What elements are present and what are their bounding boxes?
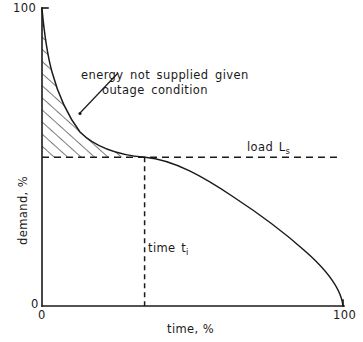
load-duration-curve-figure: 100 0 0 100 demand, % time, % energy not… — [0, 0, 363, 342]
x-tick-label-max: 100 — [333, 308, 356, 322]
load-Ls-label-text: load L — [247, 140, 286, 154]
y-tick-label-max: 100 — [13, 1, 36, 15]
plot-area — [0, 0, 363, 342]
load-Ls-label: load Ls — [247, 140, 290, 156]
annotation-line-1: energy not supplied given — [81, 68, 249, 82]
load-Ls-label-subscript: s — [286, 146, 290, 156]
annotation-line-2: outage condition — [81, 83, 249, 98]
x-tick-label-min: 0 — [38, 308, 46, 322]
time-ti-label-text: time t — [148, 241, 186, 255]
time-ti-label: time ti — [148, 241, 188, 257]
time-ti-label-subscript: i — [186, 247, 188, 257]
annotation-leader-point — [78, 112, 81, 115]
energy-not-supplied-annotation: energy not supplied given outage conditi… — [81, 68, 249, 98]
y-axis-title: demand, % — [16, 176, 30, 245]
x-axis-title: time, % — [167, 322, 214, 336]
